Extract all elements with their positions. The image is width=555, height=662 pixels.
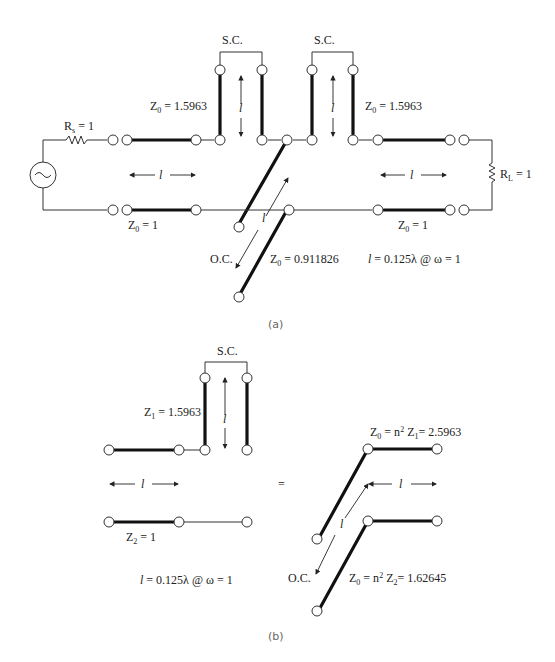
sc-stub-left: S.C. l Z0 = 1.5963: [150, 33, 262, 136]
svg-text:l: l: [262, 211, 266, 225]
stub-right-z-label: Z0 = 1.5963: [365, 99, 422, 115]
svg-text:l: l: [331, 101, 335, 115]
svg-text:l: l: [141, 477, 145, 491]
svg-text:l: l: [410, 168, 414, 182]
sc-label-b: S.C.: [217, 344, 238, 358]
figure-b: S.C. l Z1 = 1.5963 l Z2 = 1 = l = 0.125λ…: [104, 344, 461, 643]
coupled-line-pair: l O.C. Z0 = 0.911826: [210, 140, 339, 294]
svg-text:l: l: [340, 517, 344, 531]
svg-text:S.C.: S.C.: [314, 33, 335, 47]
load-resistor-icon: [489, 163, 495, 182]
caption-b: (b): [268, 630, 284, 643]
sc-stub-right: S.C. l Z0 = 1.5963: [312, 33, 422, 136]
top-z-label: Z0 = n2 Z1= 2.5963: [370, 425, 461, 441]
coupled-z-label: Z0 = 0.911826: [270, 252, 339, 268]
svg-text:l: l: [399, 477, 403, 491]
ac-source-icon: [30, 140, 56, 210]
oc-label-b: O.C.: [288, 571, 311, 585]
bottom-z-label: Z0 = n2 Z2= 1.62645: [349, 571, 446, 587]
load-resistor-label: RL = 1: [500, 167, 532, 183]
equals-sign: =: [278, 477, 285, 491]
svg-text:l: l: [239, 101, 243, 115]
oc-label: O.C.: [210, 252, 233, 266]
svg-text:S.C.: S.C.: [222, 33, 243, 47]
caption-a: (a): [268, 318, 283, 331]
length-label: l: [159, 168, 163, 182]
stub-left-z-label: Z0 = 1.5963: [150, 99, 207, 115]
figure-a: Rs = 1 Z0 = 1 l S.C. l Z0 = 1.5963 S.C.: [30, 33, 532, 331]
source-resistor-label: Rs = 1: [64, 119, 94, 135]
circuit-diagram: Rs = 1 Z0 = 1 l S.C. l Z0 = 1.5963 S.C.: [0, 0, 555, 662]
line-left-z-label: Z0 = 1: [128, 218, 158, 234]
source-resistor-icon: [66, 136, 87, 144]
z2-label: Z2 = 1: [126, 530, 156, 546]
length-spec-b: l = 0.125λ @ ω = 1: [140, 573, 233, 587]
line-right-z-label: Z0 = 1: [398, 218, 428, 234]
length-spec-a: l = 0.125λ @ ω = 1: [368, 252, 461, 266]
svg-text:l: l: [223, 412, 227, 426]
z1-label: Z1 = 1.5963: [144, 405, 201, 421]
